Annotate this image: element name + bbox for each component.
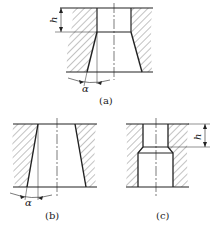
section-hatch-left	[126, 124, 143, 187]
die-hole-diagrams: h α (a) α (b)	[0, 0, 217, 232]
caption-b: (b)	[45, 210, 59, 221]
caption-c: (c)	[156, 210, 170, 221]
section-hatch-right	[168, 124, 188, 187]
section-hatch-right	[131, 8, 152, 72]
section-hatch-right	[75, 124, 96, 187]
figure-c: h (c)	[126, 118, 210, 221]
figure-b: α (b)	[10, 118, 97, 221]
h-label-a: h	[48, 17, 59, 23]
alpha-label-b: α	[25, 197, 32, 208]
section-hatch-left	[67, 8, 97, 72]
alpha-label-a: α	[82, 83, 89, 94]
section-hatch-left	[12, 124, 38, 187]
h-label-c: h	[192, 134, 203, 140]
caption-a: (a)	[99, 95, 113, 106]
figure-a: h α (a)	[48, 3, 153, 106]
